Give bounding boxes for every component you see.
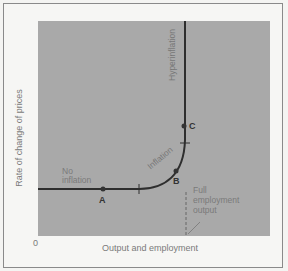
- supply-curve: [38, 21, 185, 189]
- point-a-label: A: [99, 195, 106, 205]
- point-b-label: B: [173, 176, 180, 186]
- hyperinflation-label: Hyperinflation: [167, 29, 177, 81]
- no-inflation-label-line2: inflation: [62, 175, 91, 185]
- point-a-marker: [101, 187, 106, 192]
- point-c-marker: [182, 124, 187, 129]
- annotation-leader-line: [188, 222, 200, 234]
- full-employment-label-line2: employment: [193, 195, 239, 205]
- full-employment-label-line3: output: [193, 205, 217, 215]
- y-axis-label: Rate of change of prices: [14, 89, 24, 187]
- curve-overlay: [0, 0, 288, 271]
- point-c-label: C: [189, 121, 196, 131]
- x-axis-label: Output and employment: [102, 243, 198, 253]
- origin-label: 0: [33, 238, 38, 248]
- point-b-marker: [174, 169, 179, 174]
- full-employment-label-line1: Full: [193, 185, 207, 195]
